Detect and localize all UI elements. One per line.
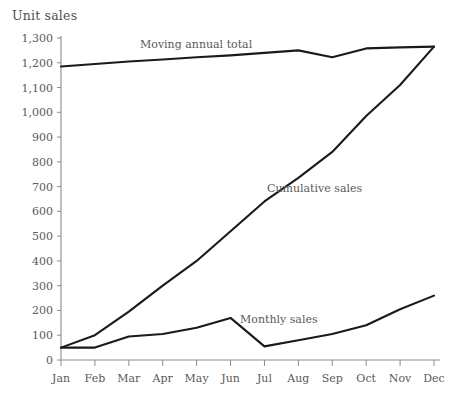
series-label-cumulative-sales: Cumulative sales bbox=[267, 182, 362, 195]
series-label-monthly-sales: Monthly sales bbox=[240, 313, 318, 326]
series-line-cumulative-sales bbox=[61, 47, 434, 348]
unit-sales-line-chart: Unit sales 01002003004005006007008009001… bbox=[0, 0, 459, 409]
plot-area bbox=[0, 0, 459, 409]
series-label-moving-annual-total: Moving annual total bbox=[140, 38, 252, 51]
data-series bbox=[61, 47, 434, 348]
